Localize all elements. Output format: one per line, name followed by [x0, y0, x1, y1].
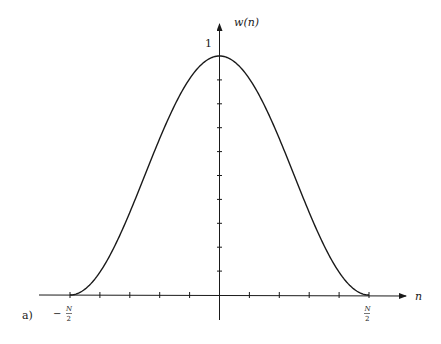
- x-tick-label-numerator: N: [364, 305, 372, 313]
- x-axis: [39, 295, 406, 296]
- y-tick-label-1: 1: [205, 37, 212, 50]
- x-tick-label-sign: −: [53, 308, 61, 319]
- figure-label: a): [22, 309, 33, 322]
- x-tick-label-neg-half-N: − N 2: [53, 305, 73, 323]
- x-tick-label-denominator: 2: [365, 315, 369, 323]
- x-tick-label-pos-half-N: N 2: [364, 305, 372, 323]
- y-axis-label: w(n): [234, 16, 259, 29]
- x-axis-label: n: [415, 290, 422, 303]
- x-tick-label-denominator: 2: [67, 315, 71, 323]
- x-tick-label-numerator: N: [65, 305, 73, 313]
- hanning-window-chart: w(n) 1 n a) − N 2 N 2: [0, 0, 441, 344]
